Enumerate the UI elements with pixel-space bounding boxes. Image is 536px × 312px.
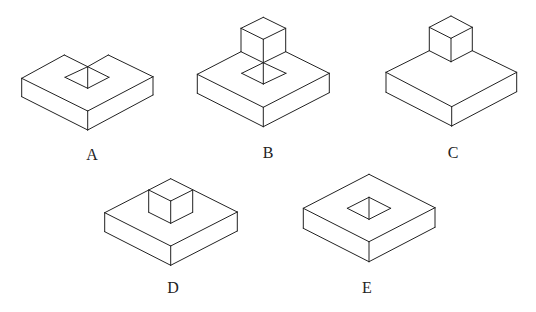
figure-d-edges xyxy=(105,179,238,266)
figure-a-edges xyxy=(22,55,153,130)
edge-line xyxy=(242,73,264,84)
edge-line xyxy=(303,228,369,261)
edge-line xyxy=(171,212,193,223)
edge-line xyxy=(386,72,452,106)
edge-line xyxy=(263,73,329,107)
edge-line xyxy=(197,93,263,126)
edge-line xyxy=(263,73,286,84)
figure-b: B xyxy=(197,17,329,160)
figure-a: A xyxy=(22,55,153,163)
edge-line xyxy=(197,52,241,75)
edge-line xyxy=(171,190,193,201)
edge-line xyxy=(263,17,285,28)
edge-line xyxy=(88,95,153,130)
figure-e-edges xyxy=(303,174,435,261)
edge-line xyxy=(303,174,369,208)
edge-line xyxy=(263,52,285,63)
edge-line xyxy=(286,52,330,74)
edge-line xyxy=(22,55,65,78)
edge-line xyxy=(369,227,435,261)
edge-line xyxy=(241,17,263,28)
edge-line xyxy=(303,208,369,241)
edge-line xyxy=(65,67,88,78)
edge-line xyxy=(263,63,286,74)
figure-e: E xyxy=(303,174,435,295)
edge-line xyxy=(429,51,451,62)
figure-b-edges xyxy=(197,17,329,126)
edge-line xyxy=(369,208,391,219)
edge-line xyxy=(472,51,516,73)
figure-e-label: E xyxy=(362,279,372,296)
edge-line xyxy=(105,213,171,246)
edge-line xyxy=(347,208,369,219)
edge-line xyxy=(241,28,263,39)
edge-line xyxy=(241,52,263,63)
edge-line xyxy=(429,16,451,27)
edge-line xyxy=(451,16,472,27)
figure-b-label: B xyxy=(263,144,274,161)
edge-line xyxy=(64,55,87,67)
edge-line xyxy=(149,212,171,223)
edge-line xyxy=(88,67,109,78)
figure-c-edges xyxy=(386,16,517,126)
figure-c-label: C xyxy=(448,144,459,161)
edge-line xyxy=(171,212,238,246)
edge-line xyxy=(451,27,472,38)
figure-a-label: A xyxy=(86,146,98,163)
edge-line xyxy=(242,63,264,74)
edge-line xyxy=(149,190,171,201)
edge-line xyxy=(369,208,435,242)
edge-line xyxy=(171,231,238,265)
edge-line xyxy=(88,77,153,111)
edge-line xyxy=(171,179,238,212)
figure-d: D xyxy=(105,179,238,296)
edge-line xyxy=(452,92,517,126)
edge-line xyxy=(369,197,391,208)
edge-line xyxy=(451,51,472,62)
edge-line xyxy=(105,232,171,266)
edge-line xyxy=(347,197,369,208)
edge-line xyxy=(386,92,452,126)
edge-line xyxy=(263,28,285,39)
edge-line xyxy=(88,55,109,67)
edge-line xyxy=(429,27,451,38)
figure-c: C xyxy=(386,16,517,161)
isometric-figures-diagram: A B C D E xyxy=(0,0,536,312)
edge-line xyxy=(386,51,429,73)
edge-line xyxy=(22,97,88,130)
figure-d-label: D xyxy=(167,279,179,296)
edge-line xyxy=(108,55,153,77)
edge-line xyxy=(65,77,88,88)
edge-line xyxy=(88,77,109,88)
edge-line xyxy=(263,93,329,127)
edge-line xyxy=(452,72,517,106)
